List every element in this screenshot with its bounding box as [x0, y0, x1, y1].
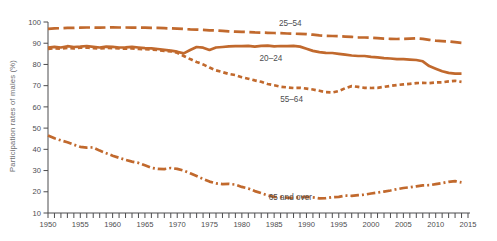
series-line-20-24	[48, 46, 462, 74]
x-tick-label: 2005	[395, 220, 412, 229]
series-line-25-54	[48, 27, 462, 43]
y-tick-label: 70	[33, 81, 41, 90]
y-tick-label: 50	[33, 124, 41, 133]
chart-figure: Participation rates of males (%) 1009080…	[0, 0, 497, 241]
x-tick-label: 2000	[363, 220, 380, 229]
x-tick-label: 2015	[460, 220, 477, 229]
series-label-65-and-over: 65 and over	[269, 193, 313, 202]
x-tick-label: 2010	[427, 220, 444, 229]
series-line-55-64	[48, 48, 462, 93]
x-tick-label: 1960	[104, 220, 121, 229]
series-line-65-and-over	[48, 136, 462, 199]
y-tick-label: 20	[33, 187, 41, 196]
y-tick-label: 60	[33, 103, 41, 112]
y-tick-label: 10	[33, 209, 41, 218]
y-tick-label: 40	[33, 145, 41, 154]
x-tick-label: 1970	[169, 220, 186, 229]
x-tick-label: 1975	[201, 220, 218, 229]
x-tick-label: 1990	[298, 220, 315, 229]
y-tick-label: 90	[33, 39, 41, 48]
series-label-55-64: 55–64	[280, 95, 303, 104]
series-label-20-24: 20–24	[260, 54, 283, 63]
x-tick-label: 1955	[72, 220, 89, 229]
y-tick-label: 100	[28, 18, 41, 27]
series-label-25-54: 25–54	[279, 19, 302, 28]
x-tick-label: 1995	[330, 220, 347, 229]
x-tick-label: 1950	[40, 220, 57, 229]
x-tick-label: 1965	[136, 220, 153, 229]
y-tick-label: 30	[33, 166, 41, 175]
participation-line-chart: 1009080706050403020101950195519601965197…	[0, 0, 497, 241]
y-tick-label: 80	[33, 60, 41, 69]
x-tick-label: 1985	[266, 220, 283, 229]
x-tick-label: 1980	[233, 220, 250, 229]
y-axis-title: Participation rates of males (%)	[8, 60, 17, 172]
